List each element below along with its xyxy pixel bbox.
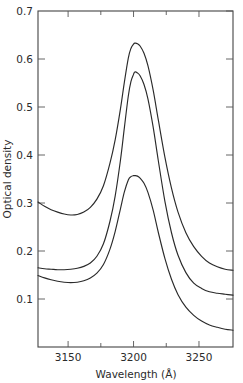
plot-frame bbox=[38, 11, 233, 347]
y-tick-label: 0.4 bbox=[16, 149, 33, 161]
x-tick-label: 3250 bbox=[186, 351, 213, 363]
y-tick-label: 0.5 bbox=[16, 101, 33, 113]
x-tick-label: 3200 bbox=[120, 351, 147, 363]
data-curve bbox=[38, 72, 233, 295]
y-tick-label: 0.2 bbox=[16, 245, 33, 257]
y-axis-ticks bbox=[38, 11, 233, 299]
y-tick-label: 0.6 bbox=[16, 53, 33, 65]
x-axis-title: Wavelength (Å) bbox=[95, 368, 176, 380]
y-tick-label: 0.7 bbox=[16, 5, 33, 17]
y-axis-title: Optical density bbox=[1, 140, 13, 219]
data-curve bbox=[38, 176, 233, 331]
chart-canvas: 315032003250 0.10.20.30.40.50.60.7 Wavel… bbox=[0, 0, 243, 383]
data-curve bbox=[38, 43, 233, 270]
figure-container: 315032003250 0.10.20.30.40.50.60.7 Wavel… bbox=[0, 0, 243, 383]
data-curves bbox=[38, 43, 233, 330]
x-axis-tick-labels: 315032003250 bbox=[55, 351, 213, 363]
y-tick-label: 0.1 bbox=[16, 293, 33, 305]
y-tick-label: 0.3 bbox=[16, 197, 33, 209]
x-tick-label: 3150 bbox=[55, 351, 82, 363]
y-axis-tick-labels: 0.10.20.30.40.50.60.7 bbox=[16, 5, 33, 305]
